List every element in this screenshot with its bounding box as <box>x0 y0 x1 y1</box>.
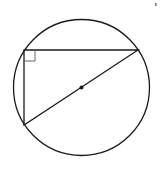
geometry-diagram <box>0 0 162 169</box>
right-angle-marker <box>24 50 35 61</box>
center-point <box>80 86 84 90</box>
corner-mark <box>155 3 157 6</box>
